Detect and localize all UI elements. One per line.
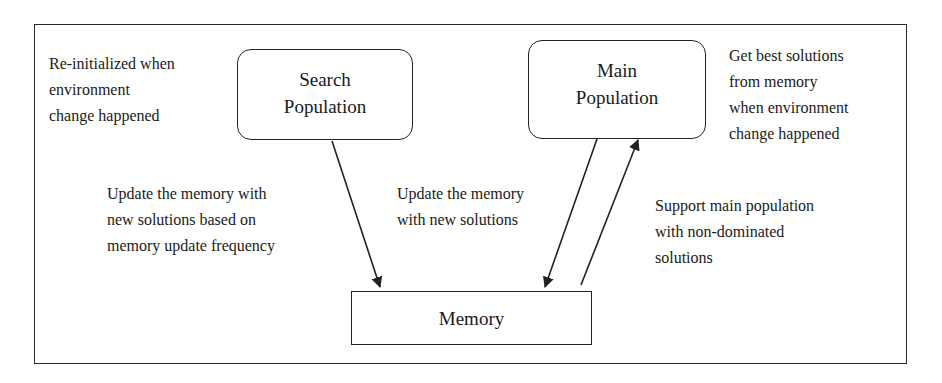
arrow-search-to-memory [332,141,380,287]
arrows-layer [0,0,942,383]
